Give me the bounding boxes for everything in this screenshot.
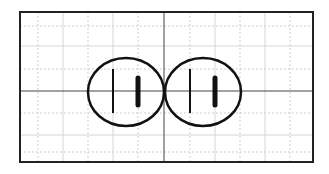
diagram-svg <box>0 0 329 174</box>
diagram-canvas <box>0 0 329 174</box>
cell-circle <box>165 58 241 126</box>
left-cell <box>88 58 164 126</box>
cell-circle <box>88 58 164 126</box>
right-cell <box>165 58 241 126</box>
